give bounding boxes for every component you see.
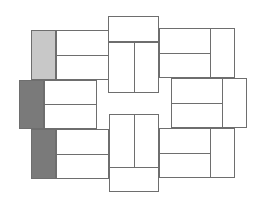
bottom-center-v-divider [134,114,136,167]
middle-left-h-divider [44,104,97,106]
bottom-left-dark-tile [31,129,56,179]
top-center-v-divider [134,41,136,93]
top-left-gray-tile [31,30,56,80]
bottom-left-h-divider [56,154,109,156]
tile-diagram [0,0,262,207]
top-left-h-divider [56,55,109,57]
middle-right-h-divider [171,103,222,105]
middle-left-dark-tile [19,80,44,129]
bottom-right-h-divider [159,153,210,155]
top-right-h-divider [159,53,210,55]
